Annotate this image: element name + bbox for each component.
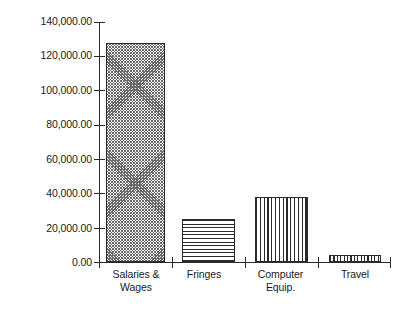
x-category-label-line2: Wages [92, 281, 180, 294]
x-tick-mark-3 [318, 257, 319, 268]
y-tick-label-140000: 140,000.00 [0, 16, 92, 27]
bar-salaries-and-wages [106, 43, 165, 262]
y-tick-label-20000: 20,000.00 [0, 223, 92, 234]
y-tick-label-60000: 60,000.00 [0, 154, 92, 165]
x-category-label-salaries-and-wages: Salaries & Wages [92, 268, 180, 293]
y-tick-mark-60000 [94, 159, 105, 160]
x-category-label-line1: Salaries & [113, 268, 160, 280]
x-category-label-line1: Travel [341, 268, 369, 280]
plot-area: 140,000.00 120,000.00 100,000.00 80,000.… [0, 0, 413, 312]
y-tick-label-0: 0.00 [0, 257, 92, 268]
x-tick-mark-4 [390, 257, 391, 268]
x-category-label-line1: Computer [258, 268, 303, 280]
x-category-label-travel: Travel [321, 268, 389, 281]
x-category-label-line1: Fringes [187, 268, 221, 280]
x-category-label-computer-equip: Computer Equip. [243, 268, 318, 293]
y-tick-mark-40000 [94, 193, 105, 194]
y-tick-mark-100000 [94, 90, 105, 91]
y-tick-mark-140000 [94, 22, 105, 23]
y-axis-line [99, 22, 100, 263]
bar-fringes [182, 219, 235, 262]
x-tick-mark-0 [99, 257, 100, 268]
y-tick-label-100000: 100,000.00 [0, 85, 92, 96]
bar-chart: 140,000.00 120,000.00 100,000.00 80,000.… [0, 0, 413, 312]
x-category-label-fringes: Fringes [170, 268, 238, 281]
y-axis-labels: 140,000.00 120,000.00 100,000.00 80,000.… [0, 0, 92, 312]
bar-computer-equip [255, 197, 308, 262]
x-tick-mark-2 [245, 257, 246, 268]
y-tick-mark-20000 [94, 228, 105, 229]
x-category-label-line2: Equip. [243, 281, 318, 294]
y-tick-label-80000: 80,000.00 [0, 119, 92, 130]
y-tick-mark-120000 [94, 56, 105, 57]
y-tick-label-120000: 120,000.00 [0, 50, 92, 61]
x-tick-mark-1 [172, 257, 173, 268]
y-tick-mark-80000 [94, 125, 105, 126]
y-tick-label-40000: 40,000.00 [0, 188, 92, 199]
bar-travel [329, 255, 381, 262]
